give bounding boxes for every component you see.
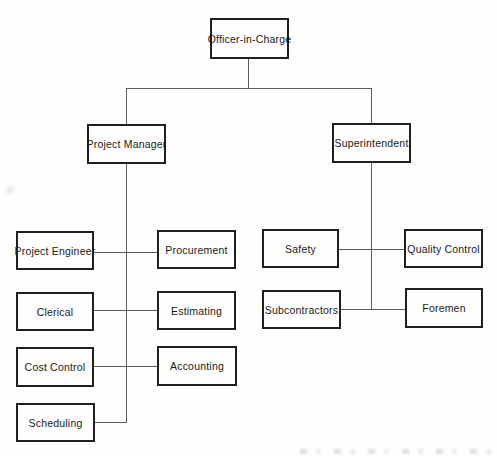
connector-superintendent-drop <box>371 88 372 123</box>
node-subcontractors: Subcontractors <box>262 290 341 329</box>
node-project-engineer-label: Project Engineer <box>15 245 96 257</box>
node-foremen-label: Foremen <box>422 302 465 314</box>
node-subcontractors-label: Subcontractors <box>265 304 338 316</box>
org-chart-diagram: Officer-in-Charge Project Manager Superi… <box>0 0 497 456</box>
connector-project-manager-drop <box>126 88 127 125</box>
node-procurement: Procurement <box>157 230 236 269</box>
connector-engineer-procurement <box>94 252 157 253</box>
node-quality-control: Quality Control <box>404 229 483 268</box>
node-clerical: Clerical <box>16 292 94 331</box>
node-safety-label: Safety <box>285 243 316 255</box>
node-superintendent-label: Superintendent <box>334 137 408 149</box>
connector-safety-qualitycontrol <box>339 249 404 250</box>
node-scheduling-label: Scheduling <box>29 417 83 429</box>
connector-top-horizontal <box>126 88 372 89</box>
node-cost-control-label: Cost Control <box>25 361 86 373</box>
connector-superintendent-trunk <box>371 163 372 309</box>
node-quality-control-label: Quality Control <box>407 243 479 255</box>
cropped-caption-artifact <box>300 449 495 454</box>
node-cost-control: Cost Control <box>16 347 94 387</box>
node-estimating: Estimating <box>157 291 236 330</box>
node-project-manager: Project Manager <box>87 124 166 164</box>
node-accounting: Accounting <box>157 346 237 386</box>
node-estimating-label: Estimating <box>171 305 222 317</box>
connector-project-manager-trunk <box>126 164 127 422</box>
node-foremen: Foremen <box>405 288 483 328</box>
connector-costcontrol-accounting <box>94 366 157 367</box>
connector-root-drop <box>248 59 249 88</box>
connector-scheduling <box>95 422 127 423</box>
node-officer-in-charge-label: Officer-in-Charge <box>208 33 292 45</box>
node-clerical-label: Clerical <box>37 306 74 318</box>
scan-smudge <box>6 186 14 194</box>
node-officer-in-charge: Officer-in-Charge <box>210 18 289 59</box>
node-accounting-label: Accounting <box>170 360 224 372</box>
node-project-engineer: Project Engineer <box>16 231 94 270</box>
node-safety: Safety <box>262 229 339 268</box>
node-scheduling: Scheduling <box>16 403 95 442</box>
connector-clerical-estimating <box>94 310 157 311</box>
node-project-manager-label: Project Manager <box>86 138 166 150</box>
connector-subcontractors-foremen <box>341 309 405 310</box>
node-procurement-label: Procurement <box>165 244 227 256</box>
node-superintendent: Superintendent <box>332 123 411 163</box>
